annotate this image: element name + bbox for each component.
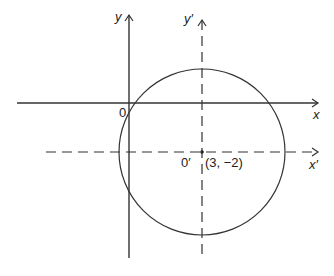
center-coordinates-label: (3, −2)	[205, 156, 243, 169]
diagram-canvas	[0, 0, 334, 276]
y-prime-axis-label: y′	[184, 12, 193, 25]
y-axis-label: y	[115, 10, 122, 23]
x-prime-axis-arrow-icon	[312, 148, 318, 156]
x-prime-axis-label: x′	[309, 158, 318, 171]
coordinate-diagram: y y′ x x′ 0 0′ (3, −2)	[0, 0, 334, 276]
x-axis-label: x	[313, 108, 320, 121]
origin-prime-label: 0′	[181, 156, 191, 169]
center-point	[200, 150, 204, 154]
origin-label: 0	[119, 106, 126, 119]
